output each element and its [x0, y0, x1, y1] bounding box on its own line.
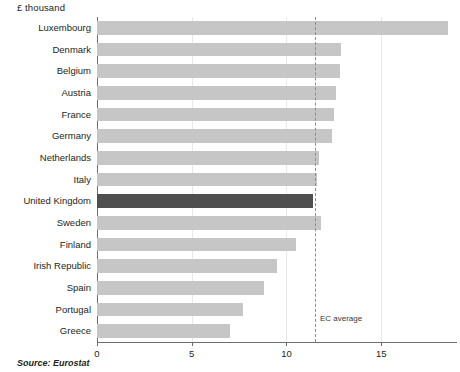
x-tick-label-10: 10 — [281, 348, 292, 359]
bar-row: Spain — [97, 277, 457, 299]
bar-spain — [97, 281, 264, 295]
category-label-irish-republic: Irish Republic — [33, 258, 91, 273]
bar-italy — [97, 173, 317, 187]
category-label-sweden: Sweden — [57, 215, 91, 230]
bar-row: Netherlands — [97, 147, 457, 169]
bar-denmark — [97, 43, 341, 57]
category-label-greece: Greece — [60, 323, 91, 338]
category-label-austria: Austria — [61, 85, 91, 100]
category-label-finland: Finland — [60, 237, 91, 252]
category-label-france: France — [61, 107, 91, 122]
bar-portugal — [97, 303, 243, 317]
bar-row: Finland — [97, 234, 457, 256]
category-label-italy: Italy — [74, 172, 91, 187]
category-label-belgium: Belgium — [57, 63, 91, 78]
source-note: Source: Eurostat — [17, 358, 90, 368]
bar-finland — [97, 238, 296, 252]
bar-greece — [97, 324, 230, 338]
bar-united-kingdom — [97, 194, 313, 208]
x-tick-10 — [286, 342, 287, 346]
category-label-denmark: Denmark — [52, 42, 91, 57]
bar-row: Italy — [97, 169, 457, 191]
bar-row: Irish Republic — [97, 255, 457, 277]
bar-sweden — [97, 216, 321, 230]
bar-row: Sweden — [97, 212, 457, 234]
bar-austria — [97, 86, 336, 100]
x-tick-label-0: 0 — [94, 348, 99, 359]
category-label-united-kingdom: United Kingdom — [23, 193, 91, 208]
bar-row: Austria — [97, 82, 457, 104]
bar-germany — [97, 129, 332, 143]
bar-luxembourg — [97, 21, 448, 35]
category-label-netherlands: Netherlands — [40, 150, 91, 165]
bar-row: Greece — [97, 320, 457, 342]
category-label-luxembourg: Luxembourg — [38, 20, 91, 35]
ec-average-label: EC average — [320, 314, 362, 323]
bar-belgium — [97, 64, 340, 78]
bar-row: Belgium — [97, 60, 457, 82]
bar-netherlands — [97, 151, 319, 165]
bar-row: United Kingdom — [97, 190, 457, 212]
bar-irish-republic — [97, 259, 277, 273]
bar-row: Germany — [97, 125, 457, 147]
category-label-germany: Germany — [52, 128, 91, 143]
x-tick-5 — [192, 342, 193, 346]
bar-row: Denmark — [97, 39, 457, 61]
unit-label: £ thousand — [17, 2, 65, 13]
x-tick-15 — [381, 342, 382, 346]
category-label-portugal: Portugal — [56, 302, 91, 317]
category-label-spain: Spain — [67, 280, 91, 295]
x-axis-line — [97, 342, 457, 343]
bar-row: Luxembourg — [97, 17, 457, 39]
x-tick-label-5: 5 — [189, 348, 194, 359]
ec-average-line — [315, 17, 316, 342]
plot-area: LuxembourgDenmarkBelgiumAustriaFranceGer… — [97, 17, 457, 342]
bar-row: Portugal — [97, 299, 457, 321]
x-tick-label-15: 15 — [376, 348, 387, 359]
bar-row: France — [97, 104, 457, 126]
x-tick-0 — [97, 342, 98, 346]
bar-chart: £ thousand LuxembourgDenmarkBelgiumAustr… — [0, 0, 460, 372]
bar-france — [97, 108, 334, 122]
